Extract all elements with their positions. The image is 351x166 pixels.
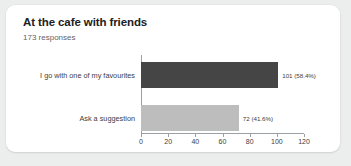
bar[interactable] <box>141 105 239 131</box>
x-tick-mark <box>277 134 278 137</box>
x-tick-mark <box>304 134 305 137</box>
x-tick-mark <box>195 134 196 137</box>
x-tick-label: 120 <box>298 138 310 145</box>
bar-chart-plot: 020406080100120 I go with one of my favo… <box>0 0 351 166</box>
bar-category-label: I go with one of my favourites <box>40 71 135 80</box>
bar-value-label: 101 (58.4%) <box>282 72 316 79</box>
x-tick-mark <box>223 134 224 137</box>
bar-value-label: 72 (41.6%) <box>243 115 273 122</box>
x-tick-mark <box>250 134 251 137</box>
bar-category-label: Ask a suggestion <box>79 114 135 123</box>
x-tick-label: 100 <box>271 138 283 145</box>
x-tick-label: 60 <box>219 138 227 145</box>
x-tick-mark <box>168 134 169 137</box>
x-tick-label: 0 <box>139 138 143 145</box>
x-tick-label: 20 <box>164 138 172 145</box>
x-tick-label: 80 <box>246 138 254 145</box>
x-tick-label: 40 <box>191 138 199 145</box>
bar[interactable] <box>141 62 278 88</box>
x-tick-mark <box>141 134 142 137</box>
